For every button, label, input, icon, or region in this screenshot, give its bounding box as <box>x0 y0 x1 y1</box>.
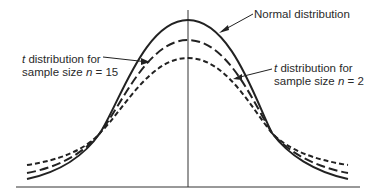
label-line2-post: = 2 <box>344 75 364 87</box>
label-line2-pre: sample size <box>274 75 338 87</box>
label-t-n15: t distribution for sample size n = 15 <box>22 53 118 79</box>
label-line1: distribution for <box>277 62 352 74</box>
t-vs-normal-diagram <box>0 0 377 194</box>
label-line2-post: = 15 <box>92 66 118 78</box>
label-normal: Normal distribution <box>254 8 350 21</box>
label-normal-text: Normal distribution <box>254 8 350 20</box>
label-t-n2: t distribution for sample size n = 2 <box>274 62 364 88</box>
label-line2-pre: sample size <box>22 66 86 78</box>
arrowhead-t-n15 <box>141 58 150 65</box>
label-line1: distribution for <box>25 53 100 65</box>
arrowhead-normal <box>219 25 229 33</box>
